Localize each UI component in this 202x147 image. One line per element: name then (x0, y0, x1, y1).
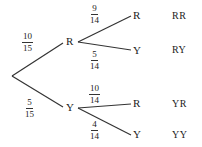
branch-Y-to-Y (78, 108, 131, 135)
node-Y: Y (66, 102, 74, 113)
prob-denominator: 14 (90, 95, 99, 105)
leaf-R-R: R (133, 10, 140, 21)
prob-Y-Y: 4 14 (90, 120, 99, 141)
leaf-R-Y: Y (133, 45, 141, 56)
prob-numerator: 9 (91, 4, 98, 15)
prob-numerator: 10 (22, 32, 33, 43)
leaf-Y-Y: Y (133, 129, 141, 140)
prob-Y-R: 10 14 (89, 84, 100, 105)
branch-R-to-Y (78, 42, 131, 50)
prob-numerator: 5 (26, 98, 33, 109)
branch-root-to-Y (12, 76, 63, 107)
prob-denominator: 14 (90, 15, 99, 25)
outcome-YR: YR (172, 99, 187, 109)
prob-numerator: 5 (91, 50, 98, 61)
branch-R-to-R (78, 16, 131, 42)
prob-denominator: 14 (90, 61, 99, 71)
prob-numerator: 10 (89, 84, 100, 95)
prob-first-R: 10 15 (22, 32, 33, 53)
prob-denominator: 14 (90, 131, 99, 141)
branch-root-to-R (12, 43, 63, 76)
prob-R-R: 9 14 (90, 4, 99, 25)
prob-first-Y: 5 15 (25, 98, 34, 119)
tree-branches (0, 0, 202, 147)
branch-Y-to-R (78, 104, 131, 108)
prob-denominator: 15 (25, 109, 34, 119)
prob-R-Y: 5 14 (90, 50, 99, 71)
outcome-RR: RR (172, 11, 186, 21)
outcome-RY: RY (172, 45, 186, 55)
node-R: R (66, 36, 73, 47)
outcome-YY: YY (172, 130, 187, 140)
prob-denominator: 15 (23, 43, 32, 53)
leaf-Y-R: R (133, 98, 140, 109)
prob-numerator: 4 (91, 120, 98, 131)
